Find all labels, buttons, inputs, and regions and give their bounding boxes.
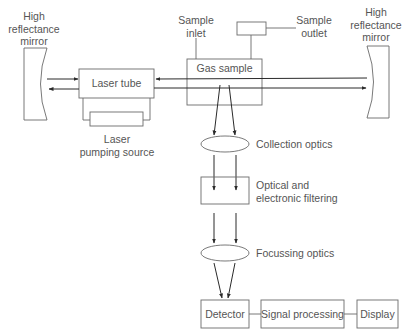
filtering-label-line1: Optical and [256,179,338,192]
sample-inlet-label-line1: Sample [178,14,214,27]
left-mirror-shape [24,48,47,120]
focussing-optics-lens [201,245,249,261]
laser-pumping-source-label: Laser pumping source [76,133,158,158]
focussing-optics-label: Focussing optics [256,247,334,260]
left-mirror-label-line3: mirror [4,35,64,48]
pumping-label-line2: pumping source [76,146,158,159]
filtering-box [201,177,249,204]
right-mirror-label: High reflectance mirror [346,6,405,44]
right-mirror-label-line2: reflectance [346,19,405,32]
sample-outlet-label: Sample outlet [294,14,334,39]
focus-arrow-2 [228,263,235,298]
sample-outlet-label-line1: Sample [294,14,334,27]
right-mirror-shape [367,46,389,118]
left-mirror-label-line2: reflectance [4,23,64,36]
laser-tube-label: Laser tube [79,77,154,89]
left-mirror-label: High reflectance mirror [4,10,64,48]
left-mirror-label-line1: High [4,10,64,23]
filtering-label: Optical and electronic filtering [256,179,338,204]
sample-inlet-label: Sample inlet [178,14,214,39]
filtering-label-line2: electronic filtering [256,192,338,205]
laser-pumping-source-box [90,112,143,126]
display-label: Display [357,308,398,320]
right-mirror-label-line3: mirror [346,31,405,44]
sample-inlet-label-line2: inlet [178,27,214,40]
diagram-canvas [0,0,405,334]
sample-outlet-box [237,22,266,35]
right-mirror-label-line1: High [346,6,405,19]
pumping-label-line1: Laser [76,133,158,146]
collection-optics-label: Collection optics [256,138,332,151]
gas-sample-label: Gas sample [187,62,262,74]
collection-optics-lens [201,136,249,152]
sample-outlet-label-line2: outlet [294,27,334,40]
detector-label: Detector [201,308,249,320]
focus-arrow-1 [214,263,222,298]
signal-processing-label: Signal processing [261,308,344,320]
